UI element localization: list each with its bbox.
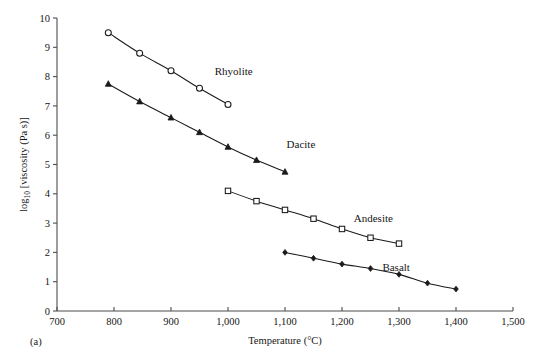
y-axis-title: log10 [viscosity (Pa s)] bbox=[18, 117, 32, 212]
data-point-marker bbox=[283, 250, 288, 256]
data-point-marker bbox=[339, 226, 344, 231]
figure-container: 012345678910 7008009001,0001,1001,2001,3… bbox=[0, 0, 558, 363]
data-point-marker bbox=[368, 235, 373, 240]
x-axis-ticks: 7008009001,0001,1001,2001,3001,4001,500 bbox=[49, 307, 525, 327]
data-point-marker bbox=[396, 241, 401, 246]
viscosity-temperature-chart: 012345678910 7008009001,0001,1001,2001,3… bbox=[0, 0, 558, 363]
y-tick-label: 4 bbox=[45, 188, 51, 199]
series-labels-group: RhyoliteDaciteAndesiteBasalt bbox=[215, 65, 410, 273]
x-tick-label: 800 bbox=[106, 316, 122, 327]
y-axis-title-text: log10 [viscosity (Pa s)] bbox=[18, 117, 32, 212]
panel-label: (a) bbox=[30, 336, 42, 348]
data-point-marker bbox=[197, 129, 203, 135]
data-point-marker bbox=[340, 261, 345, 267]
x-tick-label: 1,300 bbox=[387, 316, 411, 327]
y-tick-label: 8 bbox=[45, 71, 50, 82]
y-tick-label: 5 bbox=[45, 159, 50, 170]
y-tick-label: 2 bbox=[45, 247, 50, 258]
data-point-marker bbox=[282, 207, 287, 212]
x-tick-label: 1,100 bbox=[273, 316, 297, 327]
y-tick-label: 3 bbox=[45, 218, 50, 229]
data-point-marker bbox=[225, 188, 230, 193]
series-label-andesite: Andesite bbox=[354, 212, 393, 224]
y-tick-label: 1 bbox=[45, 276, 50, 287]
data-point-marker bbox=[168, 114, 174, 120]
data-point-marker bbox=[168, 68, 174, 74]
data-point-marker bbox=[105, 81, 111, 87]
y-tick-label: 10 bbox=[40, 13, 51, 24]
axes-group bbox=[57, 18, 513, 311]
data-point-marker bbox=[225, 101, 231, 107]
x-tick-label: 1,000 bbox=[216, 316, 240, 327]
series-basalt bbox=[283, 250, 459, 292]
series-line bbox=[108, 84, 285, 172]
x-tick-label: 700 bbox=[49, 316, 65, 327]
x-tick-label: 1,200 bbox=[330, 316, 354, 327]
data-point-marker bbox=[454, 286, 459, 292]
y-axis-ticks: 012345678910 bbox=[40, 13, 58, 317]
series-label-dacite: Dacite bbox=[287, 138, 316, 150]
data-point-marker bbox=[311, 216, 316, 221]
data-point-marker bbox=[105, 30, 111, 36]
data-point-marker bbox=[425, 280, 430, 286]
x-tick-label: 1,400 bbox=[444, 316, 468, 327]
y-tick-label: 6 bbox=[45, 130, 50, 141]
series-label-rhyolite: Rhyolite bbox=[215, 65, 253, 77]
data-point-marker bbox=[225, 144, 231, 150]
data-point-marker bbox=[311, 255, 316, 261]
y-tick-label: 7 bbox=[45, 101, 50, 112]
data-point-marker bbox=[254, 198, 259, 203]
series-label-basalt: Basalt bbox=[382, 261, 410, 273]
y-tick-label: 9 bbox=[45, 42, 50, 53]
data-point-marker bbox=[137, 98, 143, 104]
data-point-marker bbox=[368, 266, 373, 272]
data-point-marker bbox=[137, 50, 143, 56]
data-series-group bbox=[105, 30, 458, 292]
x-tick-label: 1,500 bbox=[501, 316, 525, 327]
series-rhyolite bbox=[105, 30, 231, 108]
series-dacite bbox=[105, 81, 288, 175]
x-axis-title: Temperature (°C) bbox=[248, 335, 322, 347]
data-point-marker bbox=[197, 85, 203, 91]
y-tick-label: 0 bbox=[45, 306, 50, 317]
x-tick-label: 900 bbox=[163, 316, 179, 327]
